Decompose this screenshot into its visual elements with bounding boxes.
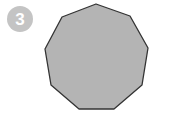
nonagon-shape [45,4,148,109]
nonagon-diagram [0,0,170,119]
